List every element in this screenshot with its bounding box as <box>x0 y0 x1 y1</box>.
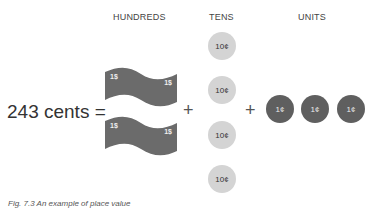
ten-cent-coin: 10¢ <box>208 76 236 104</box>
plus-sign: + <box>245 100 256 121</box>
plus-sign: + <box>183 100 194 121</box>
bill-label-left: 1$ <box>110 73 118 80</box>
one-cent-coin: 1¢ <box>301 95 329 123</box>
bill-label-right: 1$ <box>164 128 172 135</box>
dollar-bill: 1$ 1$ <box>105 115 177 157</box>
one-cent-coin: 1¢ <box>266 95 294 123</box>
figure-caption: Fig. 7.3 An example of place value <box>8 199 130 208</box>
dollar-bill: 1$ 1$ <box>105 66 177 108</box>
column-header-units: UNITS <box>298 12 326 22</box>
bill-label-left: 1$ <box>110 122 118 129</box>
ten-cent-coin: 10¢ <box>208 32 236 60</box>
ten-cent-coin: 10¢ <box>208 165 236 193</box>
one-cent-coin: 1¢ <box>337 95 365 123</box>
column-header-tens: TENS <box>209 12 234 22</box>
equation-left: 243 cents = <box>7 101 106 123</box>
ten-cent-coin: 10¢ <box>208 121 236 149</box>
column-header-hundreds: HUNDREDS <box>113 12 166 22</box>
bill-label-right: 1$ <box>164 79 172 86</box>
